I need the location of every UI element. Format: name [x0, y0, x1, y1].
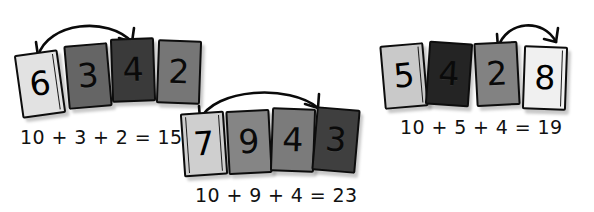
number-card-2[interactable]: 2: [156, 39, 202, 104]
number-card-9[interactable]: 9: [225, 109, 272, 175]
number-card-digit: 3: [324, 122, 348, 157]
number-card-digit: 4: [122, 52, 144, 86]
number-card-7[interactable]: 7: [180, 111, 228, 178]
number-card-digit: 4: [437, 56, 460, 90]
number-card-digit: 7: [192, 126, 215, 160]
number-card-digit: 8: [534, 60, 556, 94]
number-card-8[interactable]: 8: [522, 45, 568, 110]
number-card-6[interactable]: 6: [14, 49, 66, 119]
number-card-4[interactable]: 4: [110, 37, 156, 102]
number-card-3[interactable]: 3: [311, 106, 360, 174]
number-card-digit: 6: [27, 65, 52, 101]
equation-group-1: 10 + 3 + 2 = 15: [20, 126, 183, 148]
number-card-digit: 5: [392, 58, 416, 93]
number-card-digit: 2: [168, 54, 190, 88]
number-card-4[interactable]: 4: [270, 107, 316, 172]
number-card-digit: 9: [238, 124, 261, 158]
number-card-5[interactable]: 5: [379, 42, 428, 110]
number-card-3[interactable]: 3: [63, 42, 112, 110]
equation-group-3: 10 + 5 + 4 = 19: [400, 116, 563, 138]
worksheet-canvas: 6 3 4 2 10 + 3 + 2 = 15 7 9 4 3: [0, 0, 594, 212]
number-card-digit: 4: [282, 122, 304, 156]
number-card-digit: 2: [486, 56, 509, 90]
equation-group-2: 10 + 9 + 4 = 23: [195, 184, 358, 206]
number-card-4[interactable]: 4: [425, 41, 473, 108]
number-card-digit: 3: [76, 58, 100, 93]
number-card-2[interactable]: 2: [473, 41, 520, 107]
